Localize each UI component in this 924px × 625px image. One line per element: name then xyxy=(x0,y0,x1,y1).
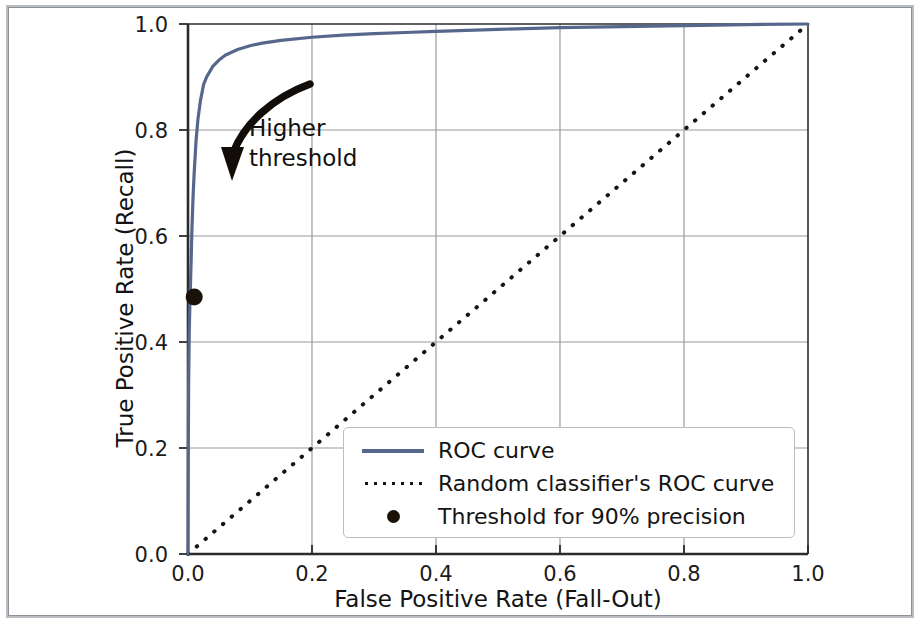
legend-label-threshold: Threshold for 90% precision xyxy=(438,504,746,529)
xtick-label-0.2: 0.2 xyxy=(277,562,347,586)
threshold-marker-dot xyxy=(186,288,203,305)
roc-curve-figure: 1.0 0.8 0.6 0.4 0.2 0.0 0.0 0.2 0.4 0.6 … xyxy=(0,0,924,625)
higher-threshold-annotation: Higher threshold xyxy=(249,113,357,173)
legend-dot-icon xyxy=(356,507,430,527)
legend-item-roc-curve: ROC curve xyxy=(344,434,794,467)
xtick-label-0.0: 0.0 xyxy=(153,562,223,586)
x-axis-title: False Positive Rate (Fall-Out) xyxy=(188,586,808,612)
xtick-label-0.8: 0.8 xyxy=(649,562,719,586)
y-axis-title: True Positive Rate (Recall) xyxy=(112,0,138,608)
legend-dotted-line-icon xyxy=(356,474,430,494)
figure-page: 1.0 0.8 0.6 0.4 0.2 0.0 0.0 0.2 0.4 0.6 … xyxy=(0,0,924,625)
legend-line-icon xyxy=(356,441,430,461)
legend-label-random-classifier: Random classifier's ROC curve xyxy=(438,471,774,496)
annotation-line-2: threshold xyxy=(249,143,357,173)
legend-item-threshold: Threshold for 90% precision xyxy=(344,500,794,533)
legend-item-random-classifier: Random classifier's ROC curve xyxy=(344,467,794,500)
legend-label-roc-curve: ROC curve xyxy=(438,438,555,463)
annotation-line-1: Higher xyxy=(249,113,357,143)
xtick-label-1.0: 1.0 xyxy=(773,562,843,586)
xtick-label-0.6: 0.6 xyxy=(525,562,595,586)
legend-box: ROC curve Random classifier's ROC curve … xyxy=(343,427,795,538)
xtick-label-0.4: 0.4 xyxy=(401,562,471,586)
